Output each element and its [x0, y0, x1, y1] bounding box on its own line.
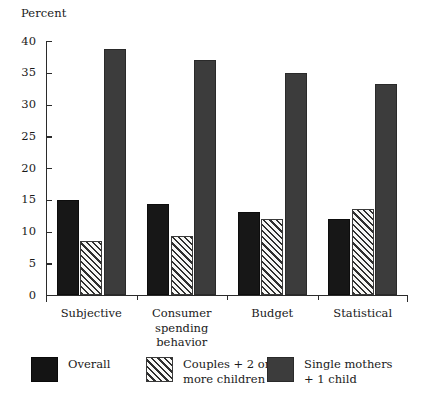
- bar: [285, 73, 307, 295]
- bar: [352, 209, 374, 295]
- y-tick-label: 25: [21, 129, 36, 143]
- legend-item: Couples + 2 or more children: [146, 356, 270, 386]
- bar: [261, 219, 283, 295]
- bar: [80, 241, 102, 295]
- y-tick-label: 30: [21, 97, 36, 111]
- legend-swatch: [31, 357, 58, 382]
- category-label: Consumer spending behavior: [137, 306, 228, 350]
- legend-item: Single mothers + 1 child: [267, 356, 393, 386]
- legend-label: Single mothers + 1 child: [304, 356, 393, 386]
- legend-label: Overall: [68, 356, 110, 372]
- x-group-separator-tick: [137, 295, 138, 300]
- y-tick-label: 10: [21, 224, 36, 238]
- x-group-separator-tick: [227, 295, 228, 300]
- y-tick-label: 15: [21, 192, 36, 206]
- bar: [171, 236, 193, 295]
- category-label: Subjective: [46, 306, 137, 321]
- category-label: Budget: [227, 306, 318, 321]
- y-tick-label: 20: [21, 161, 36, 175]
- x-group-separator-tick: [318, 295, 319, 300]
- x-axis-end-tick: [46, 295, 47, 302]
- bar-chart: Percent 0510152025303540 SubjectiveConsu…: [0, 0, 436, 408]
- bar: [328, 219, 350, 295]
- bar: [57, 200, 79, 295]
- y-tick-label: 40: [21, 34, 36, 48]
- legend-swatch: [267, 357, 294, 382]
- y-tick-label: 5: [29, 256, 36, 270]
- chart-legend: OverallCouples + 2 or more childrenSingl…: [0, 356, 436, 400]
- legend-swatch: [146, 357, 173, 382]
- legend-label: Couples + 2 or more children: [183, 356, 270, 386]
- bar: [147, 204, 169, 295]
- x-axis-end-tick: [407, 295, 408, 302]
- plot-area: [46, 41, 408, 295]
- bar: [375, 84, 397, 295]
- bar: [104, 49, 126, 295]
- y-tick-label: 35: [21, 65, 36, 79]
- bar: [194, 60, 216, 295]
- legend-item: Overall: [31, 356, 110, 382]
- y-tick-label: 0: [29, 288, 36, 302]
- category-label: Statistical: [318, 306, 409, 321]
- y-axis-label: Percent: [21, 6, 67, 20]
- bar: [238, 212, 260, 295]
